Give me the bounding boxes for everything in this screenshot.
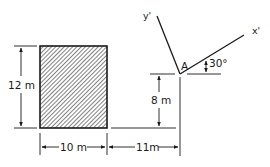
point-a-label: A: [181, 60, 189, 72]
y-prime-axis: [157, 16, 180, 74]
diagram-canvas: 12 m 10 m 11m 8 m y' x' A 30°: [0, 0, 270, 167]
y-prime-label: y': [143, 10, 151, 21]
hatched-rectangle: [40, 46, 107, 128]
x-prime-label: x': [252, 25, 260, 36]
height-label: 12 m: [8, 79, 35, 91]
rotated-axes: [157, 16, 244, 74]
vertical-offset-label: 8 m: [151, 94, 171, 106]
width-label: 10 m: [60, 141, 87, 153]
horizontal-offset-label: 11m: [136, 141, 160, 153]
angle-label: 30°: [209, 57, 228, 69]
